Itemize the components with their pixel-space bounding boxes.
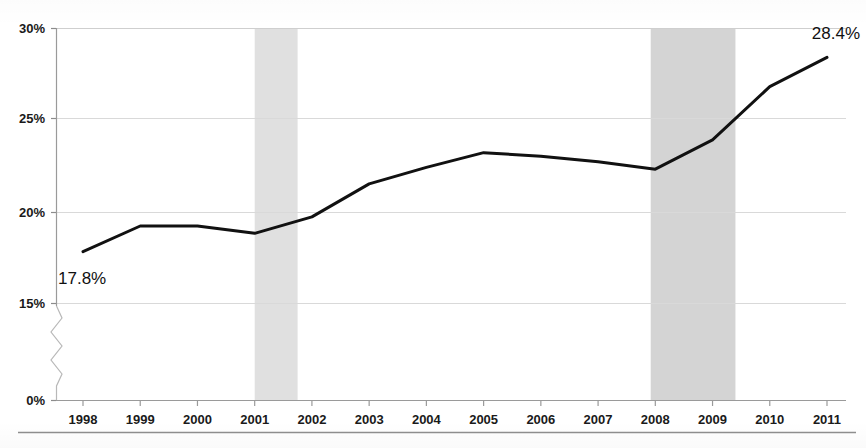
x-tick-label-2005: 2005 bbox=[469, 412, 498, 427]
y-tick-labels: 30% 25% 20% 15% 0% bbox=[19, 21, 45, 408]
x-tick-label-2001: 2001 bbox=[240, 412, 269, 427]
y-tick-label-15: 15% bbox=[19, 296, 45, 311]
y-tick-label-30: 30% bbox=[19, 21, 45, 36]
x-tick-label-2009: 2009 bbox=[698, 412, 727, 427]
y-tick-label-0: 0% bbox=[26, 393, 45, 408]
x-tick-label-2006: 2006 bbox=[526, 412, 555, 427]
y-tick-label-25: 25% bbox=[19, 111, 45, 126]
y-tick-label-20: 20% bbox=[19, 205, 45, 220]
x-tick-label-2003: 2003 bbox=[355, 412, 384, 427]
x-tick-label-1998: 1998 bbox=[69, 412, 98, 427]
x-tick-label-2002: 2002 bbox=[297, 412, 326, 427]
shaded-band-2001 bbox=[255, 28, 298, 400]
x-tick-label-2008: 2008 bbox=[641, 412, 670, 427]
x-tick-label-2011: 2011 bbox=[813, 412, 841, 427]
x-tick-label-1999: 1999 bbox=[126, 412, 155, 427]
line-chart: 30% 25% 20% 15% 0% 199819992000200120022… bbox=[0, 0, 866, 448]
chart-container: 30% 25% 20% 15% 0% 199819992000200120022… bbox=[0, 0, 866, 448]
x-tick-label-2007: 2007 bbox=[584, 412, 613, 427]
x-tick-label-2004: 2004 bbox=[412, 412, 442, 427]
data-label-end: 28.4% bbox=[812, 24, 860, 43]
shaded-band-2008 bbox=[651, 28, 736, 400]
data-label-start: 17.8% bbox=[58, 269, 106, 288]
x-tick-labels: 1998199920002001200220032004200520062007… bbox=[69, 412, 842, 427]
x-tick-label-2010: 2010 bbox=[755, 412, 784, 427]
x-tick-label-2000: 2000 bbox=[183, 412, 212, 427]
